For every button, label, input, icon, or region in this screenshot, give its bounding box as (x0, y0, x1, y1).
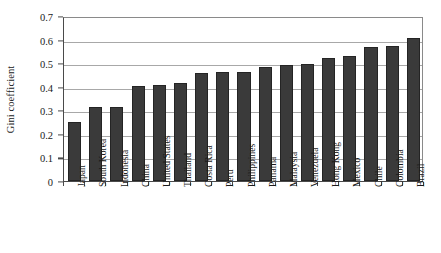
x-tick-label: Thailand (169, 187, 190, 251)
y-tick-label: 0.7 (40, 12, 53, 23)
x-tick-label: Chile (359, 187, 380, 251)
y-tick-label: 0.1 (40, 153, 53, 164)
y-tick-label: 0 (48, 177, 53, 188)
bar-slot (64, 18, 85, 181)
x-tick-label-text: Costa Rica (204, 145, 214, 187)
x-axis-tick-labels: JapanSouth KoreaIndonesiaChinaUnited Sta… (63, 187, 423, 251)
x-tick-label-text: Brazil (416, 164, 426, 187)
x-tick-label-text: Japan (77, 165, 87, 187)
gini-coefficient-bar-chart: Gini coefficient 00.10.20.30.40.50.60.7 … (0, 0, 441, 253)
y-axis-tick-labels: 00.10.20.30.40.50.60.7 (20, 17, 58, 182)
bar-slot (212, 18, 233, 181)
x-tick-label: Mexico (338, 187, 359, 251)
x-tick-label: China (127, 187, 148, 251)
x-tick-label: Colombia (381, 187, 402, 251)
x-tick-label-text: China (141, 164, 151, 187)
x-tick-label: Hong Kong (317, 187, 338, 251)
x-tick-label: South Korea (84, 187, 105, 251)
x-tick-label-text: Hong Kong (331, 142, 341, 187)
x-tick-label-text: Malaysia (289, 152, 299, 187)
plot-area (63, 17, 423, 182)
y-tick-label: 0.4 (40, 82, 53, 93)
bar-slot (360, 18, 381, 181)
x-tick-label: Peru (211, 187, 232, 251)
x-tick-label-text: Mexico (352, 158, 362, 187)
bar-series (64, 18, 422, 181)
bar-slot (128, 18, 149, 181)
bar (216, 72, 229, 181)
x-tick-label: Indonesia (105, 187, 126, 251)
x-tick-label: Japan (63, 187, 84, 251)
x-tick-label-text: South Korea (98, 139, 108, 187)
x-tick-label: Philippines (232, 187, 253, 251)
x-tick-label-text: Thailand (183, 153, 193, 187)
x-tick-label-text: Chile (374, 166, 384, 187)
x-tick-label-text: Peru (225, 169, 235, 187)
x-tick-label-text: Philippines (247, 144, 257, 187)
y-axis-title: Gini coefficient (2, 17, 20, 182)
x-tick-label-text: Indonesia (120, 150, 130, 187)
y-axis-title-label: Gini coefficient (6, 66, 17, 134)
y-axis-tick-marks (55, 17, 63, 182)
x-tick-label: Brazil (402, 187, 423, 251)
bar-slot (403, 18, 424, 181)
x-tick-label-text: Colombia (395, 149, 405, 187)
bar (407, 38, 420, 181)
x-tick-label-text: United States (162, 136, 172, 187)
x-tick-label: Malaysia (275, 187, 296, 251)
x-tick-label-text: Panama (268, 157, 278, 187)
y-tick-label: 0.2 (40, 129, 53, 140)
x-tick-label: Panama (254, 187, 275, 251)
y-tick-label: 0.6 (40, 35, 53, 46)
bar (364, 47, 377, 181)
x-tick-label: United States (148, 187, 169, 251)
x-tick-label: Costa Rica (190, 187, 211, 251)
y-tick-label: 0.3 (40, 106, 53, 117)
y-tick-label: 0.5 (40, 59, 53, 70)
x-tick-label: Venezuela (296, 187, 317, 251)
bar-slot (339, 18, 360, 181)
x-tick-label-text: Venezuela (310, 148, 320, 187)
x-tick-mark (63, 182, 64, 186)
